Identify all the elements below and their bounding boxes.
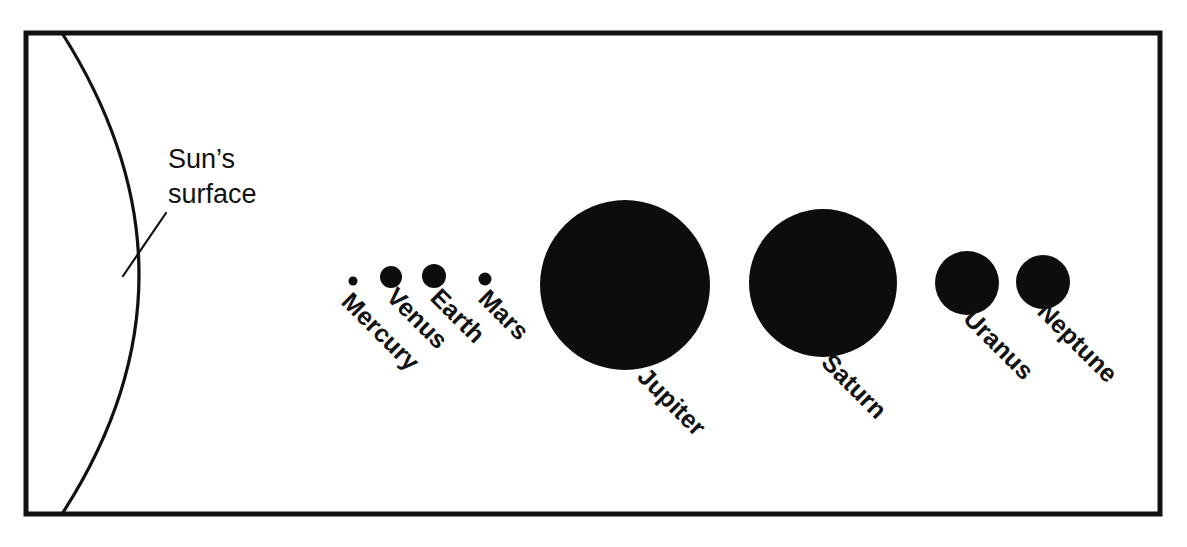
planet-label-uranus: Uranus (958, 304, 1039, 385)
planet-circle-neptune (1016, 255, 1070, 309)
diagram-canvas: Sun’s surface MercuryVenusEarthMarsJupit… (0, 0, 1187, 547)
planet-group: Jupiter (540, 200, 712, 441)
planet-circle-saturn (749, 209, 897, 357)
sun-surface-leader-line (123, 213, 166, 276)
planet-label-saturn: Saturn (816, 348, 892, 424)
sun-surface-label-line-2: surface (168, 179, 257, 209)
planet-circle-uranus (935, 251, 999, 315)
planet-circle-jupiter (540, 200, 710, 370)
planet-label-neptune: Neptune (1032, 297, 1123, 388)
planet-collection: MercuryVenusEarthMarsJupiterSaturnUranus… (336, 200, 1123, 441)
planet-size-diagram: Sun’s surface MercuryVenusEarthMarsJupit… (0, 0, 1187, 547)
planet-circle-mercury (349, 277, 358, 286)
planet-label-jupiter: Jupiter (632, 362, 711, 441)
planet-group: Saturn (749, 209, 897, 424)
planet-circle-mars (479, 273, 492, 286)
sun-surface-arc (62, 33, 139, 514)
sun-surface-label-line-1: Sun’s (168, 144, 235, 174)
